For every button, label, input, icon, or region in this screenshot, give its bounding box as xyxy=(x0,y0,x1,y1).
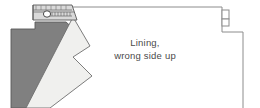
right-edge-notch-outer xyxy=(222,10,229,19)
zipper xyxy=(33,5,77,20)
lining-label: Lining, wrong side up xyxy=(113,37,176,61)
lining-label-line1: Lining, xyxy=(130,37,159,48)
zipper-pull-icon xyxy=(43,11,50,17)
diagram-root: Lining, wrong side up xyxy=(0,0,260,108)
right-edge-notch-inner xyxy=(222,19,229,26)
right-edge-notch xyxy=(222,10,229,26)
lining-diagram-svg: Lining, wrong side up xyxy=(0,0,260,108)
lining-label-line2: wrong side up xyxy=(113,50,176,61)
